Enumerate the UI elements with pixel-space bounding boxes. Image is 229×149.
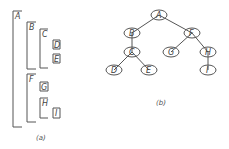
label-c: C <box>42 30 48 39</box>
label-g: G <box>41 83 47 92</box>
tree-node-f: F <box>184 28 200 38</box>
tree-node-i: I <box>200 65 216 75</box>
label-i: I <box>55 109 58 118</box>
svg-text:F: F <box>189 29 194 38</box>
tree-edges <box>114 15 208 70</box>
panel-a-nested-brackets: A B C D E F G H I (a) <box>13 11 60 142</box>
tree-node-g: G <box>163 47 179 57</box>
svg-text:D: D <box>111 66 117 75</box>
caption-a: (a) <box>36 134 46 142</box>
svg-text:E: E <box>146 66 152 75</box>
svg-text:G: G <box>168 48 174 57</box>
svg-text:A: A <box>155 11 161 20</box>
tree-node-e: E <box>141 65 157 75</box>
tree-node-b: B <box>124 28 140 38</box>
tree-representations-figure: A B C D E F G H I (a) <box>0 0 229 149</box>
label-a: A <box>14 12 20 21</box>
label-f: F <box>29 75 34 84</box>
bracket-a <box>13 11 22 127</box>
tree-node-h: H <box>200 47 216 57</box>
svg-text:C: C <box>129 48 135 57</box>
svg-text:B: B <box>129 29 135 38</box>
tree-node-d: D <box>106 65 122 75</box>
svg-text:I: I <box>206 66 209 75</box>
label-b: B <box>29 23 35 32</box>
svg-text:H: H <box>205 48 211 57</box>
label-h: H <box>42 99 48 108</box>
label-d: D <box>54 41 60 50</box>
tree-node-c: C <box>124 47 140 57</box>
edge-a-b <box>132 15 159 33</box>
caption-b: (b) <box>156 99 166 107</box>
edge-a-f <box>159 15 192 33</box>
panel-b-tree: A B F C G H D E <box>106 10 216 107</box>
tree-node-a: A <box>151 10 167 20</box>
